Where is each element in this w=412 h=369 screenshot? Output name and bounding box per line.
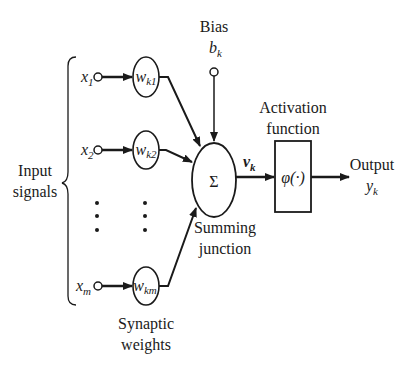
input-signals-label-line2: signals bbox=[13, 183, 57, 201]
input-node-x2 bbox=[94, 146, 102, 154]
input-node-xm bbox=[94, 282, 102, 290]
input-x1-label: x1 bbox=[80, 68, 94, 88]
activation-function-label-line1: Activation bbox=[259, 99, 327, 116]
input-row-2: x2 wk2 bbox=[80, 131, 192, 169]
ellipsis-dots bbox=[95, 201, 147, 232]
synaptic-weights-label-line2: weights bbox=[121, 336, 171, 354]
neuron-model-diagram: Input signals x1 wk1 x2 wk2 xm wkm Synap… bbox=[0, 0, 412, 369]
sum-symbol: Σ bbox=[209, 173, 218, 190]
input-signals-label-line1: Input bbox=[18, 162, 52, 180]
input-node-x1 bbox=[94, 73, 102, 81]
input-brace bbox=[62, 57, 76, 305]
summing-junction-label-line1: Summing bbox=[194, 219, 256, 237]
induced-field-label: vk bbox=[243, 153, 256, 173]
input-x2-label: x2 bbox=[80, 141, 94, 161]
activation-symbol: φ(·) bbox=[281, 169, 305, 187]
summing-junction-label-line2: junction bbox=[198, 240, 251, 258]
output-symbol: yk bbox=[364, 177, 379, 197]
weight-wk1-label: wk1 bbox=[135, 68, 156, 87]
weight-wkm-label: wkm bbox=[133, 277, 157, 296]
input-row-m: xm wkm bbox=[75, 208, 196, 305]
bias-symbol: bk bbox=[209, 39, 223, 59]
output-label: Output bbox=[350, 156, 395, 174]
synaptic-weights-label-line1: Synaptic bbox=[118, 315, 174, 333]
weight-wk2-label: wk2 bbox=[135, 141, 157, 160]
input-xm-label: xm bbox=[75, 277, 91, 297]
bias-node bbox=[210, 68, 218, 76]
activation-function-label-line2: function bbox=[266, 120, 319, 137]
bias-label: Bias bbox=[200, 18, 228, 35]
